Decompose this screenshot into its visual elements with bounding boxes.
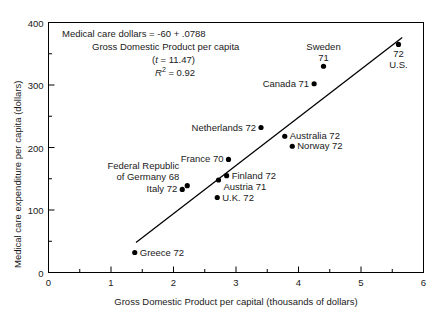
data-point-label: France 70 [181,153,224,164]
x-tick-label: 4 [296,277,301,288]
data-point-label-line: Netherlands 72 [192,122,256,133]
chart-figure: Medical care expenditure per capita (dol… [0,0,440,316]
t-value: = 11.47) [158,54,195,65]
data-point-label-line: 72 [389,48,407,59]
r-symbol: R [155,67,162,78]
data-point-label-line: U.K. 72 [222,192,254,203]
y-tick-label: 400 [28,17,44,28]
data-point-label-line: U.S. [389,59,407,70]
r-squared-value: = 0.92 [166,67,195,78]
y-tick-label: 200 [28,142,44,153]
data-point-label: Italy 72 [147,183,178,194]
data-point-label-line: Sweden [306,41,340,52]
x-axis-title: Gross Domestic Product per capital (thou… [114,296,357,307]
data-point [224,173,229,178]
data-point [258,125,263,130]
data-point [290,144,295,149]
y-axis-title: Medical care expenditure per capita (dol… [12,81,23,268]
data-point-label-line: Greece 72 [140,247,184,258]
plot-frame [49,23,424,273]
data-point-label-line: Canada 71 [263,78,309,89]
data-point-label: Netherlands 72 [192,122,256,133]
data-point-label: Norway 72 [297,140,342,151]
data-point-label-line: 71 [306,52,340,63]
y-tick-label: 0 [38,267,43,278]
data-point [312,81,317,86]
data-point-label-line: Norway 72 [297,140,342,151]
data-point-label: Finland 72 [232,170,276,181]
y-tick-label: 300 [28,80,44,91]
annotation-equation-line1: Medical care dollars = -60 + .0788 [62,28,206,39]
data-point-label: Greece 72 [140,247,184,258]
annotation-t-statistic: (t = 11.47) [152,54,195,65]
data-point-label-line: Italy 72 [147,183,178,194]
x-tick-label: 0 [46,277,51,288]
x-tick-label: 3 [233,277,238,288]
data-point-label: Canada 71 [263,78,309,89]
data-point [216,177,221,182]
data-point-label-line: Finland 72 [232,170,276,181]
data-point [282,134,287,139]
x-tick-label: 5 [358,277,363,288]
data-point-label-line: Austria 71 [224,181,267,192]
y-tick-label: 100 [28,205,44,216]
x-tick-label: 1 [108,277,113,288]
x-tick-label: 2 [171,277,176,288]
data-point-label: 72U.S. [389,48,407,70]
data-point-label: U.K. 72 [222,192,254,203]
data-point [185,183,190,188]
data-point-label: Austria 71 [224,181,267,192]
x-tick-label: 6 [421,277,426,288]
data-point [215,195,220,200]
data-point-label-line: Federal Republic [107,160,179,171]
data-point [396,42,401,47]
y-axis-ticks [49,23,55,273]
x-axis-ticks [49,267,424,273]
data-point-label-line: France 70 [181,153,224,164]
annotation-r-squared: R2 = 0.92 [155,66,195,78]
data-point [226,157,231,162]
data-point [132,250,137,255]
data-point-label: Sweden71 [306,41,340,63]
data-point-label: Federal Republicof Germany 68 [107,160,179,182]
annotation-equation-line2: Gross Domestic Product per capita [92,41,239,52]
data-point [321,64,326,69]
data-point [180,187,185,192]
data-point-label-line: of Germany 68 [107,171,179,182]
